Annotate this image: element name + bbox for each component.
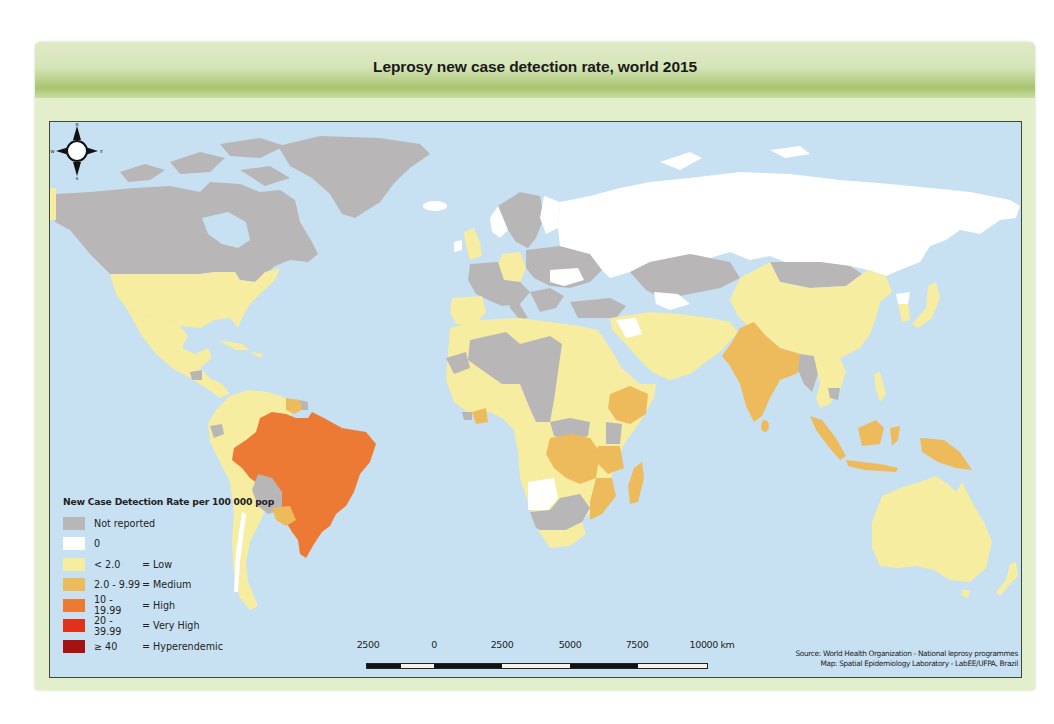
region-australia: [872, 476, 992, 582]
scale-segment: [434, 664, 502, 668]
region-iceland: [423, 201, 447, 211]
source-note: Source: World Health Organization - Nati…: [796, 649, 1019, 669]
region-tasmania: [962, 590, 970, 598]
legend-level: = Low: [142, 559, 172, 570]
scale-label: 5000: [559, 639, 582, 650]
scale-label: 7500: [626, 639, 649, 650]
region-borneo: [858, 420, 884, 446]
swatch-very-high: [63, 619, 85, 632]
swatch-medium: [63, 578, 85, 591]
scale-label: 2500: [357, 639, 380, 650]
legend-level: = High: [142, 600, 175, 611]
africa: [446, 318, 656, 548]
legend-item-very-high: 20 - 39.99 = Very High: [63, 616, 274, 637]
region-greenland: [278, 136, 430, 218]
compass-w: W: [51, 149, 55, 154]
scale-track: [366, 663, 708, 669]
region-java: [846, 460, 898, 472]
swatch-hyperendemic: [63, 640, 85, 653]
region-caribbean: [218, 340, 264, 358]
region-ireland: [454, 240, 462, 252]
region-new-zealand: [996, 562, 1018, 596]
region-madagascar: [628, 462, 644, 504]
compass-s: S: [76, 176, 79, 180]
legend-range: Not reported: [94, 518, 155, 529]
legend: New Case Detection Rate per 100 000 pop …: [63, 496, 274, 657]
region-finland: [540, 196, 560, 234]
compass-rose-icon: N S W E: [50, 122, 104, 180]
scale-segment: [367, 664, 401, 668]
title-band: Leprosy new case detection rate, world 2…: [35, 42, 1035, 98]
legend-level: = Medium: [142, 579, 191, 590]
region-japan: [912, 282, 940, 328]
region-north-korea: [896, 292, 910, 304]
region-liberia: [462, 412, 472, 420]
legend-range: ≥ 40: [94, 641, 142, 652]
legend-title: New Case Detection Rate per 100 000 pop: [63, 496, 274, 507]
legend-item-medium: 2.0 - 9.99 = Medium: [63, 575, 274, 596]
region-balkans: [530, 288, 564, 312]
region-sri-lanka: [761, 420, 769, 432]
region-png: [920, 438, 972, 470]
region-turkey: [570, 298, 626, 318]
swatch-high: [63, 599, 85, 612]
scale-segment: [638, 664, 707, 668]
legend-item-low: < 2.0 = Low: [63, 554, 274, 575]
legend-range: 20 - 39.99: [94, 615, 142, 637]
compass-e: E: [100, 149, 103, 154]
north-america: [50, 136, 447, 398]
region-korea: [898, 302, 910, 322]
source-line: Source: World Health Organization - Nati…: [796, 649, 1019, 659]
scale-segment: [570, 664, 638, 668]
region-scandinavia: [498, 192, 544, 248]
legend-item-not-reported: Not reported: [63, 513, 274, 534]
legend-range: 2.0 - 9.99: [94, 579, 142, 590]
region-alaska: [50, 188, 56, 220]
legend-item-zero: 0: [63, 534, 274, 555]
region-arctic-islands: [120, 138, 290, 186]
region-sulawesi: [890, 426, 900, 446]
swatch-low: [63, 558, 85, 571]
scale-bar: 2500 0 2500 5000 7500 10000 km: [350, 639, 750, 678]
region-kenya: [606, 422, 622, 444]
scale-label: 10000 km: [690, 639, 735, 650]
scale-segment: [502, 664, 570, 668]
region-philippines: [874, 372, 886, 402]
swatch-not-reported: [63, 517, 85, 530]
oceania: [810, 416, 1018, 598]
region-se-asia: [814, 356, 846, 408]
legend-item-high: 10 - 19.99 = High: [63, 595, 274, 616]
legend-level: = Very High: [142, 620, 200, 631]
map-title: Leprosy new case detection rate, world 2…: [373, 58, 697, 76]
region-sumatra: [810, 416, 846, 460]
swatch-zero: [63, 537, 85, 550]
legend-level: = Hyperendemic: [142, 641, 223, 652]
legend-item-hyperendemic: ≥ 40 = Hyperendemic: [63, 636, 274, 657]
compass-n: N: [76, 122, 79, 127]
region-canada: [55, 182, 318, 282]
map-credit-line: Map: Spatial Epidemiology Laboratory - L…: [796, 659, 1019, 669]
region-arctic-russia-islands: [660, 146, 810, 170]
legend-range: < 2.0: [94, 559, 142, 570]
scale-segment: [401, 664, 434, 668]
scale-label: 2500: [491, 639, 514, 650]
region-uk: [464, 228, 482, 260]
scale-label: 0: [431, 639, 437, 650]
legend-range: 10 - 19.99: [94, 594, 142, 616]
legend-range: 0: [94, 538, 142, 549]
map-frame: New Case Detection Rate per 100 000 pop …: [49, 121, 1022, 678]
